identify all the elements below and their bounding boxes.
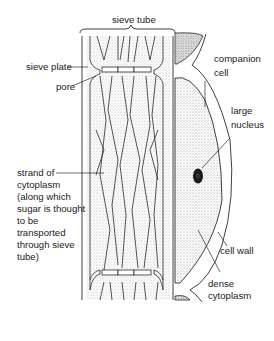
sieve-tube-brace bbox=[80, 25, 175, 33]
sieve-tube-contents bbox=[86, 36, 170, 300]
label-companion-cell: companion cell bbox=[214, 52, 261, 80]
label-cell-wall: cell wall bbox=[220, 245, 254, 257]
label-sieve-tube: sieve tube bbox=[112, 14, 156, 26]
label-large-nucleus: large nucleus bbox=[231, 104, 264, 132]
label-pore: pore bbox=[56, 81, 75, 93]
label-strand-of-cytoplasm: strand of cytoplasm (along which sugar i… bbox=[17, 167, 85, 263]
sieve-plate-bottom bbox=[102, 270, 151, 275]
label-sieve-plate: sieve plate bbox=[26, 61, 72, 73]
sieve-plate-top bbox=[102, 67, 151, 72]
label-dense-cytoplasm: dense cytoplasm bbox=[208, 278, 251, 302]
